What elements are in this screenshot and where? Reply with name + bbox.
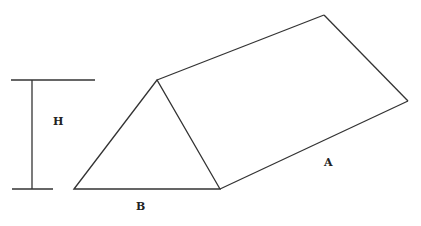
prism-diagram xyxy=(0,0,421,226)
ridge-edge xyxy=(157,15,324,80)
back-slope-edge xyxy=(324,15,408,101)
base-label: B xyxy=(136,200,145,213)
length-label: A xyxy=(324,156,333,169)
front-triangle-face xyxy=(74,80,220,189)
height-label: H xyxy=(53,115,63,128)
base-length-edge xyxy=(220,101,408,189)
